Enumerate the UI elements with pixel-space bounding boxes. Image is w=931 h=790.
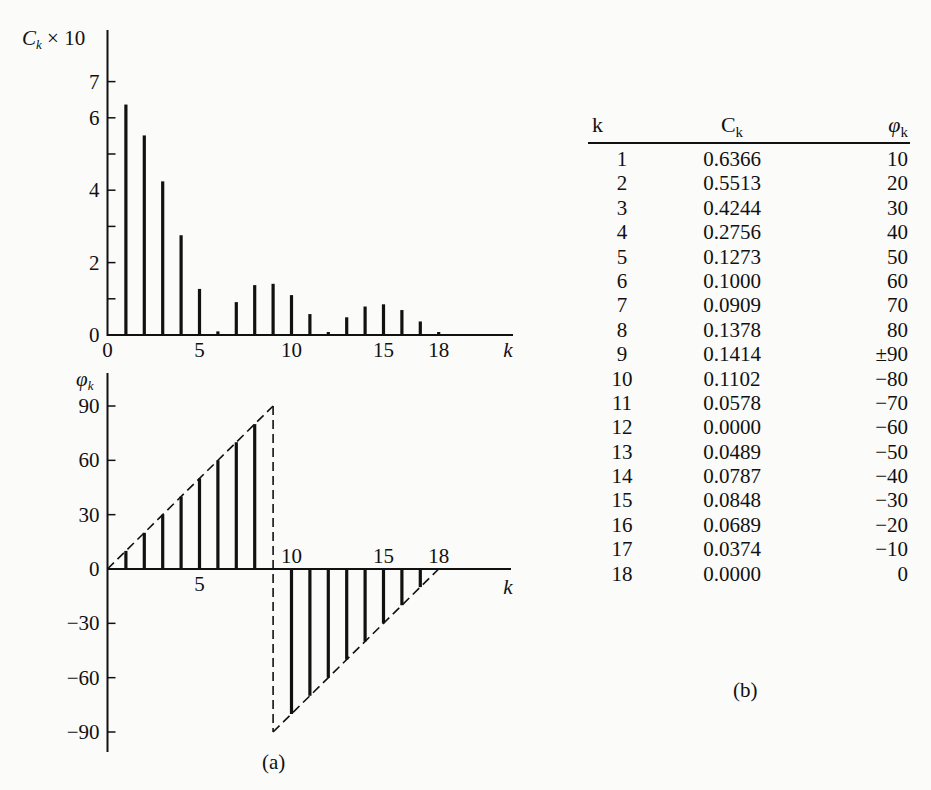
y-tick-label: 4 <box>89 178 100 202</box>
cell-phik: −50 <box>808 440 910 464</box>
table-row: 110.0578−70 <box>588 391 910 415</box>
table-row: 180.00000 <box>588 562 910 586</box>
caption-a: (a) <box>262 750 285 775</box>
y-tick-label: 60 <box>79 448 100 472</box>
x-tick-label: 15 <box>373 544 394 568</box>
header-ck: Ck <box>656 112 808 138</box>
cell-k: 16 <box>588 513 656 537</box>
cell-k: 7 <box>588 293 656 317</box>
figure-a: 02467Ck × 1005101518k9060300−30−60−90φk5… <box>0 0 560 790</box>
x-tick-label: 18 <box>428 544 449 568</box>
cell-phik: −30 <box>808 488 910 512</box>
y-tick-label: 0 <box>89 557 100 581</box>
cell-ck: 0.0489 <box>656 440 808 464</box>
cell-ck: 0.2756 <box>656 220 808 244</box>
cell-ck: 0.1000 <box>656 269 808 293</box>
cell-phik: 40 <box>808 220 910 244</box>
x-tick-label: 5 <box>194 572 205 596</box>
cell-ck: 0.0848 <box>656 488 808 512</box>
y-tick-label: 7 <box>89 70 100 94</box>
header-phik: φk <box>808 112 910 138</box>
table-row: 130.0489−50 <box>588 440 910 464</box>
cell-k: 2 <box>588 171 656 195</box>
cell-k: 11 <box>588 391 656 415</box>
cell-k: 12 <box>588 415 656 439</box>
cell-phik: −60 <box>808 415 910 439</box>
cell-phik: 10 <box>808 147 910 171</box>
table-row: 20.551320 <box>588 171 910 195</box>
x-axis-label-top: k <box>503 338 513 362</box>
cell-k: 14 <box>588 464 656 488</box>
y-tick-label: −30 <box>67 611 100 635</box>
header-k: k <box>588 112 656 138</box>
table-row: 30.424430 <box>588 196 910 220</box>
table-row: 70.090970 <box>588 293 910 317</box>
cell-phik: −10 <box>808 537 910 561</box>
cell-phik: ±90 <box>808 342 910 366</box>
cell-phik: 60 <box>808 269 910 293</box>
cell-ck: 0.0578 <box>656 391 808 415</box>
x-axis-label-bottom: k <box>503 575 513 599</box>
cell-phik: −70 <box>808 391 910 415</box>
y-tick-label: −60 <box>67 666 100 690</box>
y-tick-label: 6 <box>89 106 100 130</box>
cell-phik: 50 <box>808 245 910 269</box>
cell-phik: −80 <box>808 367 910 391</box>
y-tick-label: 0 <box>89 323 100 347</box>
cell-phik: 0 <box>808 562 910 586</box>
cell-ck: 0.1414 <box>656 342 808 366</box>
cell-phik: 20 <box>808 171 910 195</box>
cell-ck: 0.0000 <box>656 562 808 586</box>
table-row: 40.275640 <box>588 220 910 244</box>
cell-ck: 0.1273 <box>656 245 808 269</box>
cell-k: 4 <box>588 220 656 244</box>
y-axis-label-top: Ck × 10 <box>22 26 85 52</box>
x-tick-label: 10 <box>281 544 302 568</box>
caption-b: (b) <box>733 678 758 703</box>
cell-k: 1 <box>588 147 656 171</box>
cell-ck: 0.0909 <box>656 293 808 317</box>
cell-ck: 0.4244 <box>656 196 808 220</box>
table-row: 100.1102−80 <box>588 367 910 391</box>
cell-ck: 0.0000 <box>656 415 808 439</box>
cell-ck: 0.1102 <box>656 367 808 391</box>
cell-k: 6 <box>588 269 656 293</box>
y-tick-label: 90 <box>79 394 100 418</box>
y-tick-label: −90 <box>67 720 100 744</box>
cell-ck: 0.6366 <box>656 147 808 171</box>
cell-ck: 0.0374 <box>656 537 808 561</box>
table-row: 90.1414±90 <box>588 342 910 366</box>
cell-k: 15 <box>588 488 656 512</box>
cell-phik: 80 <box>808 318 910 342</box>
cell-k: 18 <box>588 562 656 586</box>
x-tick-label: 18 <box>428 338 449 362</box>
cell-k: 3 <box>588 196 656 220</box>
table-row: 60.100060 <box>588 269 910 293</box>
cell-k: 17 <box>588 537 656 561</box>
cell-k: 10 <box>588 367 656 391</box>
table-row: 170.0374−10 <box>588 537 910 561</box>
table-row: 10.636610 <box>588 147 910 171</box>
y-axis-label-bottom: φk <box>76 367 94 393</box>
cell-ck: 0.1378 <box>656 318 808 342</box>
table-row: 150.0848−30 <box>588 488 910 512</box>
table-body: 10.63661020.55132030.42443040.27564050.1… <box>588 144 910 586</box>
cell-k: 8 <box>588 318 656 342</box>
cell-phik: −40 <box>808 464 910 488</box>
x-tick-label: 0 <box>102 338 113 362</box>
stem-plots: 02467Ck × 1005101518k9060300−30−60−90φk5… <box>0 0 560 790</box>
y-tick-label: 30 <box>79 503 100 527</box>
coefficient-table: k Ck φk 10.63661020.55132030.42443040.27… <box>588 100 910 586</box>
x-tick-label: 10 <box>281 338 302 362</box>
cell-k: 13 <box>588 440 656 464</box>
cell-k: 5 <box>588 245 656 269</box>
cell-k: 9 <box>588 342 656 366</box>
cell-phik: 70 <box>808 293 910 317</box>
table-header: k Ck φk <box>588 100 910 144</box>
table-row: 80.137880 <box>588 318 910 342</box>
cell-phik: −20 <box>808 513 910 537</box>
cell-ck: 0.5513 <box>656 171 808 195</box>
cell-phik: 30 <box>808 196 910 220</box>
y-tick-label: 2 <box>89 251 100 275</box>
x-tick-label: 15 <box>373 338 394 362</box>
